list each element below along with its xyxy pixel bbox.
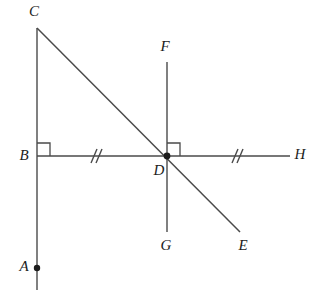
point-label-d: D <box>153 162 165 178</box>
geometry-diagram-canvas: C F B D H G E A <box>0 0 323 302</box>
point-label-e: E <box>237 237 247 253</box>
point-label-g: G <box>161 237 172 253</box>
point-label-c: C <box>29 3 40 19</box>
diagonal-line-CE <box>37 28 240 232</box>
point-dot-d <box>164 153 171 160</box>
point-label-h: H <box>294 146 307 162</box>
point-label-f: F <box>159 38 170 54</box>
geometry-figure: C F B D H G E A <box>0 0 323 302</box>
point-dot-a <box>34 265 40 271</box>
point-label-b: B <box>19 147 28 163</box>
right-angle-marker-at-b <box>37 143 50 156</box>
point-label-a: A <box>18 258 29 274</box>
